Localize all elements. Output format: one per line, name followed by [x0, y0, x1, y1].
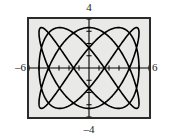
x-max-label: 6: [152, 62, 176, 73]
y-max-label: 4: [0, 2, 178, 13]
x-min-label: –6: [2, 62, 26, 73]
calculator-screen: [27, 17, 151, 119]
y-min-label: –4: [0, 124, 178, 135]
graph-figure: 4 –6 6 –4: [0, 0, 178, 139]
plot-canvas: [29, 19, 149, 117]
